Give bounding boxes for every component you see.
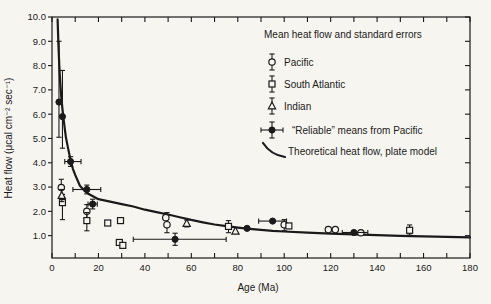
pacific-point	[332, 226, 338, 232]
heat-flow-figure: 0204060801001201401601801.02.03.04.05.06…	[0, 0, 491, 304]
legend-title: Mean heat flow and standard errors	[264, 29, 422, 40]
reliable-pacific-point	[56, 99, 62, 105]
y-tick-label: 7.0	[33, 84, 46, 95]
legend-item-label: “Reliable” means from Pacific	[292, 125, 423, 136]
legend-symbol	[269, 59, 275, 65]
y-tick-label: 6.0	[33, 109, 46, 120]
legend-item-label: Theoretical heat flow, plate model	[288, 146, 437, 157]
south-atlantic-point	[84, 218, 90, 224]
y-tick-label: 4.0	[33, 157, 46, 168]
pacific-point	[325, 226, 331, 232]
south-atlantic-point	[118, 218, 124, 224]
x-axis-label: Age (Ma)	[237, 282, 278, 293]
south-atlantic-point	[105, 220, 111, 226]
legend-item-2: South Atlantic	[269, 76, 345, 92]
curve-sample	[263, 143, 285, 157]
heat-flow-vs-age-chart: 0204060801001201401601801.02.03.04.05.06…	[0, 0, 491, 304]
x-tick-label: 120	[323, 262, 339, 273]
x-tick-label: 0	[49, 262, 54, 273]
plot-frame	[52, 17, 470, 258]
x-tick-label: 100	[276, 262, 292, 273]
reliable-pacific-point	[59, 114, 65, 120]
reliable-pacific-point	[67, 158, 73, 164]
x-tick-label: 140	[369, 262, 385, 273]
y-tick-label: 8.0	[33, 60, 46, 71]
y-tick-label: 2.0	[33, 206, 46, 217]
south-atlantic-point	[286, 223, 292, 229]
legend-item-label: Indian	[284, 101, 311, 112]
pacific-point	[164, 222, 170, 228]
legend-item-label: Pacific	[284, 57, 313, 68]
y-tick-label: 1.0	[33, 230, 46, 241]
x-tick-label: 80	[232, 262, 243, 273]
pacific-point	[163, 214, 169, 220]
x-tick-label: 60	[186, 262, 197, 273]
x-tick-label: 20	[93, 262, 104, 273]
legend: PacificSouth AtlanticIndian“Reliable” me…	[261, 54, 437, 157]
reliable-pacific-point	[270, 218, 276, 224]
reliable-pacific-point	[172, 236, 178, 242]
legend-symbol	[269, 81, 275, 87]
south-atlantic-point	[59, 200, 65, 206]
legend-symbol	[268, 102, 275, 109]
legend-item-3: Indian	[268, 98, 311, 114]
x-tick-label: 180	[462, 262, 478, 273]
legend-item-4: “Reliable” means from Pacific	[261, 122, 423, 138]
reliable-pacific-point	[90, 201, 96, 207]
axes-frame	[52, 17, 470, 258]
indian-point	[58, 192, 65, 199]
series-reliable-pacific	[56, 41, 368, 245]
x-tick-label: 160	[416, 262, 432, 273]
south-atlantic-point	[407, 227, 413, 233]
y-tick-label: 5.0	[33, 133, 46, 144]
y-tick-label: 9.0	[33, 36, 46, 47]
legend-item-label: South Atlantic	[284, 79, 345, 90]
south-atlantic-point	[120, 242, 126, 248]
series-pacific	[58, 179, 364, 236]
legend-item-1: Pacific	[269, 54, 314, 70]
reliable-pacific-point	[351, 229, 357, 235]
reliable-pacific-point	[84, 186, 90, 192]
south-atlantic-point	[225, 223, 231, 229]
legend-item-5: Theoretical heat flow, plate model	[263, 143, 437, 157]
y-tick-label: 10.0	[28, 11, 47, 22]
legend-symbol	[269, 127, 275, 133]
y-tick-label: 3.0	[33, 181, 46, 192]
reliable-pacific-point	[244, 225, 250, 231]
y-axis-label: Heat flow (μcal cm⁻² sec⁻¹)	[3, 78, 14, 199]
x-tick-label: 40	[140, 262, 151, 273]
